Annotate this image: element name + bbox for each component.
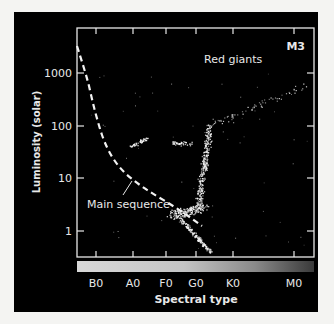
x-axis-label: Spectral type: [154, 293, 237, 306]
annotation-main-sequence: Main sequence: [87, 198, 170, 211]
x-tick-K0: K0: [226, 277, 240, 290]
main-sequence-pointer: [123, 181, 132, 195]
x-tick-F0: F0: [159, 277, 172, 290]
spectral-color-bar: [77, 261, 314, 272]
x-tick-A0: A0: [126, 277, 141, 290]
y-ticks-left: [77, 73, 84, 231]
y-tick-1: 1: [65, 225, 72, 238]
x-ticks-top: [96, 28, 294, 34]
x-tick-M0: M0: [286, 277, 303, 290]
annotation-red-giants: Red giants: [204, 53, 262, 66]
y-tick-100: 100: [51, 120, 72, 133]
x-tick-B0: B0: [89, 277, 104, 290]
hr-diagram: 1000 100 10 1 Luminosity (solar) B0 A0 F…: [0, 0, 334, 324]
y-axis-label: Luminosity (solar): [31, 91, 42, 194]
y-ticks-right: [307, 73, 314, 231]
x-tick-G0: G0: [188, 277, 204, 290]
plot-frame: [77, 28, 314, 257]
star-points: [91, 74, 308, 254]
y-tick-10: 10: [58, 172, 72, 185]
y-tick-1000: 1000: [44, 67, 72, 80]
chart-title: M3: [286, 40, 305, 53]
x-ticks-bottom: [96, 251, 294, 257]
